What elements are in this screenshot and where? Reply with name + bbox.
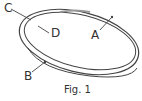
- label-b: B: [24, 70, 32, 82]
- label-a: A: [91, 29, 99, 41]
- leader-b: [32, 62, 45, 72]
- label-d: D: [51, 27, 60, 39]
- point-a: [111, 16, 113, 18]
- figure-caption: Fig. 1: [64, 85, 91, 95]
- label-c: C: [4, 2, 12, 14]
- point-b: [44, 61, 46, 63]
- band-shading: [60, 11, 90, 13]
- leader-c: [11, 9, 31, 20]
- leader-d: [38, 26, 49, 33]
